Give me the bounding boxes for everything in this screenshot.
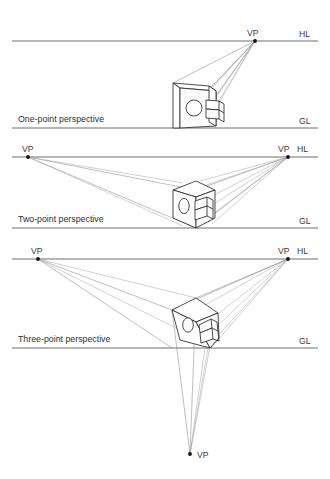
vanishing-point-dot-bottom-p3 [188, 452, 192, 456]
vanishing-point-label-right-p3: VP [278, 246, 290, 256]
panel-three-point: VP VP VP HL GL Three-point perspective [12, 246, 318, 460]
vanishing-point-label-left-p2: VP [22, 144, 34, 154]
vanishing-point-label-bottom-p3: VP [197, 450, 209, 460]
vanishing-point-dot-left-p3 [36, 257, 40, 261]
horizon-line-label-p1: HL [299, 29, 310, 39]
vanishing-point-label-p1: VP [247, 28, 259, 38]
ground-line-label-p3: GL [299, 336, 311, 346]
circle-hole-p2 [179, 198, 189, 213]
panel-two-point: VP VP HL GL Two-point perspective [12, 144, 318, 228]
vanishing-point-dot-p1 [253, 39, 257, 43]
vanishing-point-dot-right-p3 [286, 257, 290, 261]
vanishing-point-dot-left-p2 [26, 155, 30, 159]
panel-caption-one-point: One-point perspective [18, 114, 104, 124]
panel-one-point: VP HL GL One-point perspective [12, 28, 318, 128]
vanishing-point-label-right-p2: VP [278, 144, 290, 154]
circle-hole-p3 [183, 318, 194, 332]
block-front-face-p1 [173, 83, 180, 128]
horizon-line-label-p2: HL [297, 144, 308, 154]
ground-line-label-p2: GL [299, 216, 311, 226]
panel-caption-three-point: Three-point perspective [18, 334, 111, 344]
circle-hole-p1 [186, 100, 202, 116]
vanishing-point-dot-right-p2 [286, 155, 290, 159]
panel-caption-two-point: Two-point perspective [18, 214, 104, 224]
horizon-line-label-p3: HL [297, 246, 308, 256]
perspective-diagram: VP HL GL One-point perspective [0, 0, 330, 479]
vanishing-point-label-left-p3: VP [31, 246, 43, 256]
ground-line-label-p1: GL [299, 116, 311, 126]
diagram-canvas: VP HL GL One-point perspective [0, 0, 330, 479]
